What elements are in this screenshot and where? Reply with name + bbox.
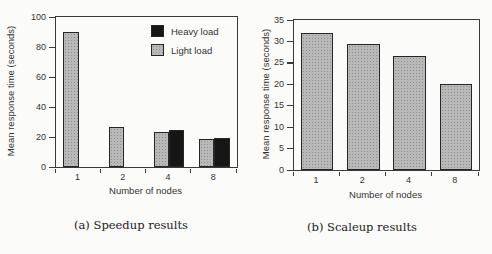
y-tick-label: 30 xyxy=(268,36,284,47)
x-tick-mark xyxy=(385,172,386,176)
y-tick-label: 25 xyxy=(268,57,284,68)
y-tick-mark xyxy=(287,84,293,85)
y-tick-mark xyxy=(287,20,293,21)
bar-light-load-node-2 xyxy=(347,44,379,170)
x-tick-label: 1 xyxy=(301,175,331,186)
y-tick-label: 0 xyxy=(268,165,284,176)
y-tick-label: 15 xyxy=(268,100,284,111)
scaleup-chart: Mean response time (seconds) Number of n… xyxy=(0,0,492,254)
y-tick-mark xyxy=(287,127,293,128)
y-tick-mark xyxy=(287,41,293,42)
x-axis-label: Number of nodes xyxy=(293,189,478,201)
bar-light-load-node-8 xyxy=(440,84,472,170)
y-tick-mark xyxy=(287,105,293,106)
x-tick-mark xyxy=(339,172,340,176)
bar-light-load-node-4 xyxy=(393,56,425,170)
y-tick-mark xyxy=(287,148,293,149)
figure: Mean response time (seconds) Heavy load … xyxy=(0,0,492,254)
y-tick-label: 35 xyxy=(268,15,284,26)
x-tick-mark xyxy=(478,172,479,176)
x-tick-mark xyxy=(431,172,432,176)
x-tick-label: 8 xyxy=(440,175,470,186)
bar-light-load-node-1 xyxy=(301,33,333,170)
x-tick-label: 2 xyxy=(347,175,377,186)
y-tick-label: 5 xyxy=(268,143,284,154)
plot-area xyxy=(293,19,480,171)
y-tick-label: 10 xyxy=(268,122,284,133)
x-tick-label: 4 xyxy=(394,175,424,186)
x-tick-mark xyxy=(293,172,294,176)
y-tick-mark xyxy=(287,170,293,171)
caption-speedup: (a) Speedup results xyxy=(41,218,221,232)
caption-scaleup: (b) Scaleup results xyxy=(272,220,452,234)
y-tick-label: 20 xyxy=(268,79,284,90)
y-tick-mark xyxy=(287,62,293,63)
